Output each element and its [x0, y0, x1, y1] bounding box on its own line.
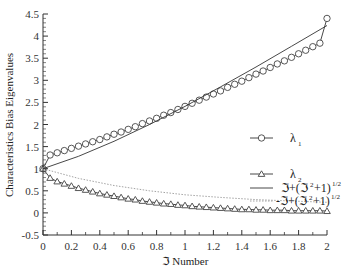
y-tick-label: 4.5 — [25, 8, 39, 20]
x-tick-label: 0.4 — [93, 240, 107, 252]
circle-marker-icon — [132, 124, 138, 130]
x-tick-label: 1.8 — [292, 240, 306, 252]
circle-marker-icon — [288, 54, 294, 60]
circle-marker-icon — [246, 74, 252, 80]
legend-tail: +1) — [313, 194, 330, 208]
legend-label: λ — [290, 167, 296, 181]
circle-marker-icon — [224, 84, 230, 90]
circle-marker-icon — [267, 64, 273, 70]
x-axis-label: ℑ Number — [162, 255, 209, 267]
axes: 00.20.40.60.811.21.41.61.82-0.500.511.52… — [22, 8, 330, 252]
circle-marker-icon — [139, 120, 145, 126]
legend-label: ℑ+(ℑ — [281, 181, 308, 195]
legend-exponent: 1/2 — [331, 193, 340, 201]
legend-item-4: -ℑ+(ℑ2+1)1/2 — [250, 193, 340, 208]
x-tick-label: 1 — [182, 240, 188, 252]
circle-marker-icon — [125, 126, 131, 132]
circle-marker-icon — [217, 88, 223, 94]
circle-marker-icon — [232, 81, 238, 87]
y-tick-label: 2.5 — [25, 96, 39, 108]
x-tick-label: 0.8 — [150, 240, 164, 252]
legend-item-1: λ1 — [250, 131, 302, 148]
circle-marker-icon — [317, 40, 323, 46]
y-tick-label: 0.5 — [25, 185, 39, 197]
y-tick-label: 3.5 — [25, 52, 39, 64]
x-tick-label: 1.2 — [207, 240, 221, 252]
circle-marker-icon — [295, 51, 301, 57]
series-1 — [40, 15, 330, 172]
circle-marker-icon — [310, 44, 316, 50]
circle-marker-icon — [97, 136, 103, 142]
circle-marker-icon — [175, 106, 181, 112]
x-tick-label: 1.4 — [235, 240, 249, 252]
circle-marker-icon — [253, 71, 259, 77]
circle-marker-icon — [239, 78, 245, 84]
x-tick-label: 0.6 — [121, 240, 135, 252]
circle-marker-icon — [111, 131, 117, 137]
circle-marker-icon — [68, 145, 74, 151]
circle-marker-icon — [260, 68, 266, 74]
circle-marker-icon — [75, 143, 81, 149]
circle-marker-icon — [324, 15, 330, 21]
legend-circle-icon — [258, 135, 264, 141]
circle-marker-icon — [281, 58, 287, 64]
circle-marker-icon — [47, 152, 53, 158]
y-tick-label: 4 — [34, 30, 40, 42]
circle-marker-icon — [274, 61, 280, 67]
y-axis-label: Characteristics Bias Eigenvalues — [3, 53, 15, 197]
circle-marker-icon — [90, 139, 96, 145]
x-tick-label: 0 — [40, 240, 46, 252]
y-tick-label: 3 — [34, 74, 40, 86]
eigenvalue-chart: 00.20.40.60.811.21.41.61.82-0.500.511.52… — [0, 0, 347, 271]
circle-marker-icon — [118, 129, 124, 135]
y-tick-label: 1 — [34, 163, 40, 175]
legend-label: λ — [290, 131, 296, 145]
legend-item-3: ℑ+(ℑ2+1)1/2 — [250, 180, 341, 195]
y-tick-label: -0.5 — [22, 229, 40, 241]
y-tick-label: 2 — [34, 119, 40, 131]
x-tick-label: 2 — [324, 240, 330, 252]
legend-label: -ℑ+(ℑ — [276, 194, 307, 208]
x-tick-label: 0.2 — [65, 240, 79, 252]
y-tick-label: 1.5 — [25, 141, 39, 153]
legend-subscript: 1 — [298, 140, 302, 148]
circle-marker-icon — [54, 150, 60, 156]
circle-marker-icon — [104, 134, 110, 140]
legend-tail: +1) — [314, 181, 331, 195]
legend-exponent: 1/2 — [332, 180, 341, 188]
circle-marker-icon — [61, 147, 67, 153]
triangle-marker-icon — [54, 178, 61, 184]
legend: λ1λ2ℑ+(ℑ2+1)1/2-ℑ+(ℑ2+1)1/2 — [250, 131, 341, 208]
x-tick-label: 1.6 — [263, 240, 277, 252]
circle-marker-icon — [303, 47, 309, 53]
circle-marker-icon — [82, 141, 88, 147]
y-tick-label: 0 — [34, 207, 40, 219]
